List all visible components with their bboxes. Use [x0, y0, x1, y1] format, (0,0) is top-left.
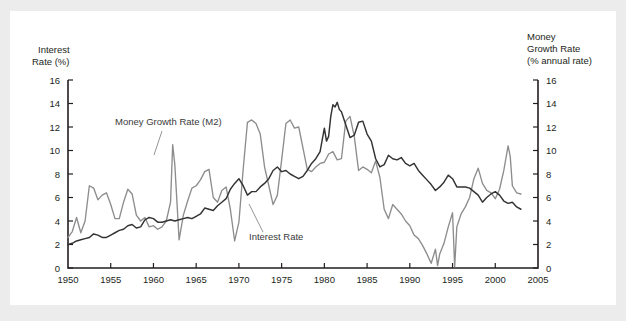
y-tick-label: 0 [55, 263, 60, 274]
x-tick-label: 1955 [100, 274, 121, 285]
right-axis-title-line3: (% annual rate) [527, 55, 592, 66]
x-tick-label: 2005 [527, 274, 548, 285]
y-tick-label: 14 [49, 98, 60, 109]
y-tick-label: 6 [55, 192, 60, 203]
y2-tick-label: 6 [546, 192, 551, 203]
x-tick-label: 1965 [186, 274, 207, 285]
y2-tick-label: 16 [546, 75, 557, 86]
chart-tick-labels: 0022446688101012121414161619501955196019… [49, 75, 556, 286]
right-axis-title-line1: Money [527, 31, 556, 42]
y2-tick-label: 0 [546, 263, 551, 274]
left-axis-title-line2: Rate (%) [32, 56, 69, 67]
y-tick-label: 12 [49, 122, 60, 133]
chart-panel: Interest Rate (%) Money Growth Rate (% a… [10, 11, 616, 305]
y2-tick-label: 12 [546, 122, 557, 133]
money-growth-interest-rate-chart: Interest Rate (%) Money Growth Rate (% a… [10, 11, 616, 305]
money-growth-annotation: Money Growth Rate (M2) [115, 116, 222, 155]
right-axis-title: Money Growth Rate (% annual rate) [527, 31, 592, 66]
x-tick-label: 1970 [228, 274, 249, 285]
y-tick-label: 8 [55, 169, 60, 180]
x-tick-label: 1975 [271, 274, 292, 285]
money-growth-annotation-text: Money Growth Rate (M2) [115, 116, 222, 127]
y-tick-label: 10 [49, 145, 60, 156]
chart-stage: Interest Rate (%) Money Growth Rate (% a… [10, 11, 616, 305]
right-axis-title-line2: Growth Rate [527, 43, 580, 54]
interest-rate-annotation-text: Interest Rate [249, 231, 303, 242]
x-tick-label: 1990 [399, 274, 420, 285]
x-tick-label: 1950 [57, 274, 78, 285]
y2-tick-label: 10 [546, 145, 557, 156]
x-tick-label: 2000 [485, 274, 506, 285]
left-axis-title: Interest Rate (%) [32, 44, 70, 67]
series-line-money-growth-rate-m2 [68, 116, 521, 266]
interest-rate-leader-line [249, 204, 263, 232]
y2-tick-label: 4 [546, 216, 551, 227]
y2-tick-label: 2 [546, 239, 551, 250]
x-tick-label: 1980 [314, 274, 335, 285]
y2-tick-label: 8 [546, 169, 551, 180]
x-tick-label: 1960 [143, 274, 164, 285]
chart-series-group [68, 102, 521, 266]
left-axis-title-line1: Interest [38, 44, 70, 55]
x-tick-label: 1985 [357, 274, 378, 285]
x-tick-label: 1995 [442, 274, 463, 285]
money-growth-leader-line [154, 131, 162, 155]
figure-frame: Interest Rate (%) Money Growth Rate (% a… [0, 0, 626, 321]
y-tick-label: 16 [49, 75, 60, 86]
y-tick-label: 4 [55, 216, 60, 227]
y2-tick-label: 14 [546, 98, 557, 109]
interest-rate-annotation: Interest Rate [249, 204, 303, 242]
y-tick-label: 2 [55, 239, 60, 250]
